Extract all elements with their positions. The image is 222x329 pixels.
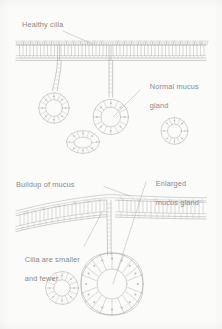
diseased-cilia-left — [26, 199, 101, 213]
healthy-cilia-label: Healthy cilia — [22, 20, 63, 29]
buildup-of-mucus-label: Buildup of mucus — [16, 180, 75, 189]
gland-acinus-right — [93, 99, 128, 134]
leader-cilia-smaller-fewer — [84, 212, 102, 247]
figure-canvas: Healthy cilia Normal mucus gland Buildup… — [0, 0, 222, 329]
gland-acinus-left — [39, 93, 69, 123]
gland-duct-left — [53, 60, 62, 90]
healthy-cilia-tufts — [16, 41, 208, 45]
normal-mucus-gland-label: Normal mucus gland — [141, 73, 199, 120]
gland-duct-right — [109, 60, 113, 97]
cilia-smaller-fewer-label: Cilia are smaller and fewer — [16, 246, 80, 293]
enlarged-mucus-gland-label-line1: Enlarged — [156, 179, 187, 188]
gland-section-small — [161, 118, 188, 145]
diseased-epithelium-left — [16, 199, 107, 231]
enlarged-mucus-gland-label-line2: mucus gland — [156, 198, 199, 207]
cilia-smaller-fewer-label-line2: and fewer — [25, 274, 59, 283]
cilia-smaller-fewer-label-line1: Cilia are smaller — [25, 255, 80, 264]
gland-section-oval — [67, 131, 100, 154]
enlarged-gland-acinus — [81, 253, 143, 315]
normal-mucus-gland-label-line1: Normal mucus — [150, 82, 199, 91]
healthy-epithelium-band — [16, 45, 206, 60]
leader-healthy-cilia — [63, 31, 93, 44]
normal-mucus-gland-label-line2: gland — [150, 101, 169, 110]
enlarged-gland-duct — [107, 200, 111, 255]
leader-enlarged-mucus-gland — [113, 182, 146, 284]
enlarged-mucus-gland-label: Enlarged mucus gland — [147, 170, 199, 217]
